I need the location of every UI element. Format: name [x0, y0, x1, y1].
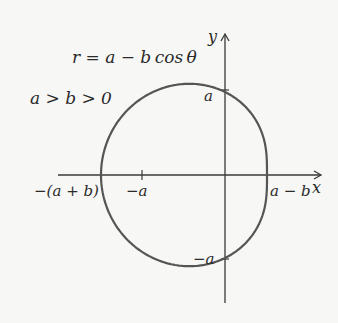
equation-label: r = a − b cos θ — [72, 47, 197, 67]
label-neg-a-x: −a — [126, 182, 148, 200]
y-axis-label: y — [207, 27, 218, 46]
label-right-intercept: a − b — [270, 182, 311, 200]
condition-label: a > b > 0 — [30, 88, 112, 108]
x-axis-label: x — [312, 178, 321, 197]
limacon-diagram: r = a − b cos θ a > b > 0 y x a −a −a −(… — [0, 0, 338, 323]
label-neg-a-bottom: −a — [193, 250, 215, 268]
label-a-top: a — [204, 87, 213, 105]
label-left-intercept: −(a + b) — [34, 182, 99, 200]
